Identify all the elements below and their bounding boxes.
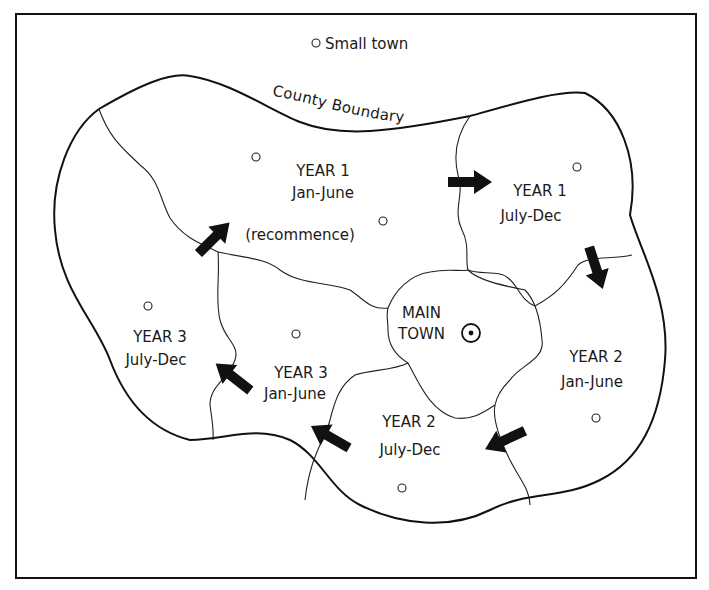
zone-label-period: July-Dec — [499, 207, 561, 225]
small-town-marker — [252, 153, 260, 161]
main-town: MAIN TOWN — [397, 304, 480, 343]
zone-label-year: YEAR 2 — [568, 348, 623, 366]
main-town-icon-dot — [469, 331, 474, 336]
arrow-right-icon — [448, 170, 492, 194]
small-town-marker — [292, 330, 300, 338]
zone-label-year: YEAR 3 — [132, 328, 187, 346]
zone-label-period: July-Dec — [378, 441, 440, 459]
legend-small-town-label: Small town — [325, 35, 408, 53]
small-town-icon — [312, 39, 320, 47]
small-town-marker — [573, 163, 581, 171]
zone-label-period: Jan-June — [263, 385, 326, 403]
zone-year3-july-dec: YEAR 3 July-Dec — [124, 328, 186, 369]
main-town-label-line1: MAIN — [402, 304, 441, 322]
rotation-map-diagram: Small town County Boundary MAIN TOWN — [0, 0, 709, 590]
small-towns — [144, 153, 600, 492]
small-town-marker — [144, 302, 152, 310]
zone-label-year: YEAR 1 — [295, 162, 350, 180]
main-town-label-line2: TOWN — [397, 325, 445, 343]
small-town-marker — [379, 217, 387, 225]
zone-year2-july-dec: YEAR 2 July-Dec — [378, 413, 440, 459]
zone-year1-jan-june: YEAR 1 Jan-June (recommence) — [245, 162, 355, 244]
arrow-down-left-icon — [480, 420, 530, 460]
zone-label-period: Jan-June — [291, 184, 354, 202]
zone-label-year: YEAR 1 — [512, 182, 567, 200]
zone-label-year: YEAR 3 — [273, 364, 328, 382]
zone-year3-jan-june: YEAR 3 Jan-June — [263, 364, 328, 403]
zone-year1-july-dec: YEAR 1 July-Dec — [499, 182, 566, 225]
zone-label-year: YEAR 2 — [381, 413, 436, 431]
district-boundaries — [99, 109, 632, 505]
zone-year2-jan-june: YEAR 2 Jan-June — [560, 348, 623, 391]
county-boundary — [54, 75, 665, 522]
arrow-down-icon — [578, 243, 614, 292]
small-town-marker — [592, 414, 600, 422]
zone-label-period: July-Dec — [124, 351, 186, 369]
small-town-marker — [398, 484, 406, 492]
zone-label-period: Jan-June — [560, 373, 623, 391]
zone-label-note: (recommence) — [245, 226, 355, 244]
arrow-up-left-icon — [208, 354, 257, 400]
legend-small-town: Small town — [312, 35, 408, 53]
